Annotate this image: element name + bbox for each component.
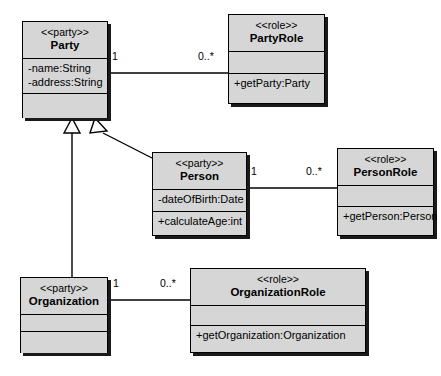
stereotype-person: <<party>> [157, 157, 242, 169]
class-header-person: <<party>> Person [153, 153, 246, 189]
attributes-partyrole [229, 51, 324, 73]
stereotype-personrole: <<role>> [342, 153, 429, 165]
stereotype-party: <<party>> [27, 26, 103, 38]
attribute-row: -address:String [28, 76, 102, 90]
class-name-party: Party [27, 39, 103, 53]
stereotype-organization: <<party>> [25, 282, 103, 294]
class-header-organization: <<party>> Organization [21, 278, 107, 314]
class-name-organization: Organization [25, 295, 103, 309]
uml-class-diagram: 1 0..* 1 0..* 1 0..* <<party>> Party -na… [0, 0, 441, 376]
class-header-party: <<party>> Party [23, 22, 107, 58]
attribute-row: -name:String [28, 62, 102, 76]
stereotype-partyrole: <<role>> [233, 19, 320, 31]
operation-row: +getPerson:Person [343, 210, 428, 224]
multiplicity-person-end: 1 [251, 165, 257, 177]
class-name-organizationrole: OrganizationRole [195, 286, 361, 300]
operations-party [23, 93, 107, 118]
class-box-organizationrole[interactable]: <<role>> OrganizationRole +getOrganizati… [190, 268, 366, 353]
attributes-person: -dateOfBirth:Date [153, 189, 246, 211]
multiplicity-organizationrole-end: 0..* [160, 277, 176, 289]
operation-row: +getParty:Party [234, 77, 319, 91]
generalization-arrow-organization-party [64, 118, 80, 133]
class-header-organizationrole: <<role>> OrganizationRole [191, 269, 365, 305]
class-box-partyrole[interactable]: <<role>> PartyRole +getParty:Party [228, 14, 325, 104]
operations-personrole: +getPerson:Person [338, 206, 433, 228]
attributes-organization [21, 314, 107, 331]
multiplicity-party-end: 1 [112, 50, 118, 62]
multiplicity-organization-end: 1 [113, 277, 119, 289]
class-box-person[interactable]: <<party>> Person -dateOfBirth:Date +calc… [152, 152, 247, 236]
operation-row: +calculateAge:int [158, 215, 241, 229]
class-name-partyrole: PartyRole [233, 32, 320, 46]
operations-partyrole: +getParty:Party [229, 73, 324, 95]
operations-organization [21, 331, 107, 353]
class-header-personrole: <<role>> PersonRole [338, 149, 433, 185]
class-box-party[interactable]: <<party>> Party -name:String -address:St… [22, 21, 108, 118]
generalization-line-person-party [103, 133, 152, 158]
attributes-organizationrole [191, 305, 365, 325]
generalization-arrow-person-party [90, 118, 107, 133]
class-box-personrole[interactable]: <<role>> PersonRole +getPerson:Person [337, 148, 434, 236]
attributes-party: -name:String -address:String [23, 58, 107, 94]
stereotype-organizationrole: <<role>> [195, 273, 361, 285]
operation-row: +getOrganization:Organization [196, 329, 360, 343]
attribute-row: -dateOfBirth:Date [158, 193, 241, 207]
attributes-personrole [338, 185, 433, 206]
class-box-organization[interactable]: <<party>> Organization [20, 277, 108, 353]
operations-organizationrole: +getOrganization:Organization [191, 325, 365, 347]
multiplicity-personrole-end: 0..* [306, 165, 322, 177]
class-name-person: Person [157, 170, 242, 184]
operations-person: +calculateAge:int [153, 211, 246, 233]
class-name-personrole: PersonRole [342, 166, 429, 180]
multiplicity-partyrole-end: 0..* [198, 50, 214, 62]
class-header-partyrole: <<role>> PartyRole [229, 15, 324, 51]
